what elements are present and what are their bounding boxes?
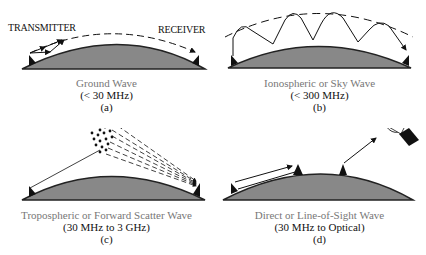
panel-line-of-sight: Direct or Line-of-Sight Wave (30 MHz to … bbox=[213, 128, 426, 255]
caption-label: (b) bbox=[213, 101, 426, 113]
caption-label: (a) bbox=[0, 101, 213, 113]
uplink-ray bbox=[344, 138, 376, 163]
panel-sky-wave: Ionospheric or Sky Wave (< 300 MHz) (b) bbox=[213, 0, 426, 128]
ionosphere-layer bbox=[225, 14, 413, 38]
panel-ground-wave: TRANSMITTER RECEIVER Ground Wave (< 30 M… bbox=[0, 0, 213, 128]
caption-range: (< 300 MHz) bbox=[213, 89, 426, 101]
caption-d: Direct or Line-of-Sight Wave (30 MHz to … bbox=[213, 209, 426, 245]
caption-range: (30 MHz to 3 GHz) bbox=[0, 221, 213, 233]
scatter-volume-dots bbox=[91, 128, 114, 153]
transmitter-label: TRANSMITTER bbox=[8, 22, 76, 33]
caption-range: (< 30 MHz) bbox=[0, 89, 213, 101]
ground-antenna-1 bbox=[231, 183, 238, 194]
earth-surface bbox=[228, 47, 411, 69]
caption-title: Tropospheric or Forward Scatter Wave bbox=[0, 209, 213, 221]
ground-antenna-3 bbox=[339, 164, 347, 175]
earth-surface bbox=[223, 174, 413, 200]
earth-surface bbox=[22, 45, 205, 70]
satellite-icon bbox=[371, 128, 419, 146]
earth-surface bbox=[22, 177, 205, 201]
receiver-label: RECEIVER bbox=[158, 24, 205, 35]
caption-label: (d) bbox=[213, 233, 426, 245]
caption-label: (c) bbox=[0, 233, 213, 245]
caption-a: Ground Wave (< 30 MHz) (a) bbox=[0, 77, 213, 113]
caption-title: Ground Wave bbox=[0, 77, 213, 89]
panel-tropospheric-scatter: Tropospheric or Forward Scatter Wave (30… bbox=[0, 128, 213, 255]
caption-c: Tropospheric or Forward Scatter Wave (30… bbox=[0, 209, 213, 245]
caption-range: (30 MHz to Optical) bbox=[213, 221, 426, 233]
ground-antenna-2 bbox=[293, 164, 303, 175]
caption-b: Ionospheric or Sky Wave (< 300 MHz) (b) bbox=[213, 77, 426, 113]
caption-title: Ionospheric or Sky Wave bbox=[213, 77, 426, 89]
caption-title: Direct or Line-of-Sight Wave bbox=[213, 209, 426, 221]
